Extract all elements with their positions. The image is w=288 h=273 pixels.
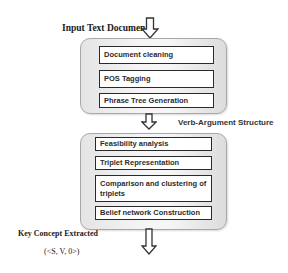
- step-belief-network-construction: Belief network Construction: [95, 206, 212, 220]
- step-label: Triplet Representation: [100, 158, 179, 168]
- output-label: Key Concept Extracted: [18, 229, 98, 238]
- step-label: Feasibility analysis: [100, 139, 168, 149]
- step-feasibility-analysis: Feasibility analysis: [95, 137, 212, 151]
- step-pos-tagging: POS Tagging: [99, 70, 214, 88]
- step-comparison-clustering: Comparison and clustering of triplets: [95, 175, 212, 202]
- input-label: Input Text Document: [62, 23, 149, 33]
- intermediate-label: Verb-Argument Structure: [178, 118, 274, 127]
- step-triplet-representation: Triplet Representation: [95, 156, 212, 170]
- down-arrow-icon: [141, 113, 157, 130]
- step-document-cleaning: Document cleaning: [99, 46, 214, 64]
- step-phrase-tree-generation: Phrase Tree Generation: [99, 93, 214, 108]
- step-label: POS Tagging: [104, 74, 151, 84]
- step-label: Phrase Tree Generation: [104, 96, 188, 106]
- down-arrow-icon: [141, 228, 157, 255]
- step-label: Belief network Construction: [100, 208, 200, 218]
- step-label: Document cleaning: [104, 50, 173, 60]
- step-label: Comparison and clustering of triplets: [100, 179, 207, 199]
- output-format: (<S, V, 0>): [44, 247, 79, 256]
- down-arrow-icon: [141, 17, 159, 39]
